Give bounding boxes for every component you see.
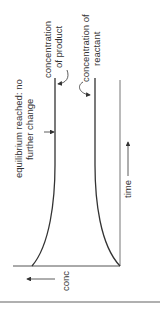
conc-axis-label: conc bbox=[60, 271, 71, 291]
reactant-label-arrow-icon bbox=[79, 82, 90, 95]
reactant-label-line2: reactant bbox=[91, 31, 102, 66]
product-curve bbox=[32, 78, 55, 266]
product-label-line1: concentration bbox=[42, 21, 53, 78]
product-label-line2: of product bbox=[53, 25, 64, 68]
reactant-curve bbox=[95, 78, 120, 266]
equilibrium-label-line1: equilibrium reached: no bbox=[13, 79, 24, 178]
reactant-label-line1: concentration of bbox=[80, 14, 91, 82]
equilibrium-diagram: equilibrium reached: no further change c… bbox=[0, 0, 160, 321]
equilibrium-label-line2: further change bbox=[24, 99, 35, 160]
separator-line bbox=[0, 301, 160, 303]
time-axis-label: time bbox=[122, 180, 133, 198]
product-label-arrow-icon bbox=[58, 70, 68, 84]
